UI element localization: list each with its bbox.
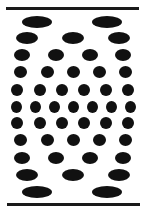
ellipse-dot: [108, 169, 130, 181]
ellipse-dot: [14, 152, 30, 164]
ellipse-dot: [100, 84, 112, 96]
dot-pattern-figure: [0, 0, 145, 210]
ellipse-dot: [16, 32, 38, 44]
ellipse-dot: [14, 66, 27, 78]
ellipse-dot: [22, 186, 52, 198]
ellipse-dot: [34, 117, 46, 129]
ellipse-dot: [106, 101, 117, 113]
ellipse-dot: [22, 16, 52, 28]
ellipse-dot: [56, 117, 68, 129]
ellipse-dot: [14, 134, 27, 146]
ellipse-dot: [122, 84, 134, 96]
ellipse-dot: [115, 152, 131, 164]
ellipse-dot: [41, 134, 54, 146]
top-line: [6, 7, 139, 10]
ellipse-dot: [41, 66, 54, 78]
ellipse-dot: [30, 101, 41, 113]
bottom-line: [7, 203, 140, 206]
ellipse-dot: [119, 134, 132, 146]
ellipse-dot: [100, 117, 112, 129]
ellipse-dot: [115, 49, 131, 61]
ellipse-dot: [82, 49, 98, 61]
ellipse-dot: [34, 84, 46, 96]
ellipse-dot: [48, 49, 64, 61]
ellipse-dot: [11, 101, 22, 113]
ellipse-dot: [78, 117, 90, 129]
ellipse-dot: [92, 186, 122, 198]
ellipse-dot: [122, 117, 134, 129]
ellipse-dot: [125, 101, 136, 113]
ellipse-dot: [78, 84, 90, 96]
ellipse-dot: [82, 152, 98, 164]
ellipse-dot: [93, 134, 106, 146]
ellipse-dot: [16, 169, 38, 181]
ellipse-dot: [11, 84, 23, 96]
ellipse-dot: [62, 169, 84, 181]
ellipse-dot: [11, 117, 23, 129]
ellipse-dot: [49, 101, 60, 113]
ellipse-dot: [67, 134, 80, 146]
ellipse-dot: [56, 84, 68, 96]
ellipse-dot: [87, 101, 98, 113]
ellipse-dot: [48, 152, 64, 164]
ellipse-dot: [119, 66, 132, 78]
ellipse-dot: [108, 32, 130, 44]
ellipse-dot: [68, 101, 79, 113]
ellipse-dot: [93, 66, 106, 78]
ellipse-dot: [14, 49, 30, 61]
ellipse-dot: [92, 16, 122, 28]
ellipse-dot: [67, 66, 80, 78]
ellipse-dot: [62, 32, 84, 44]
